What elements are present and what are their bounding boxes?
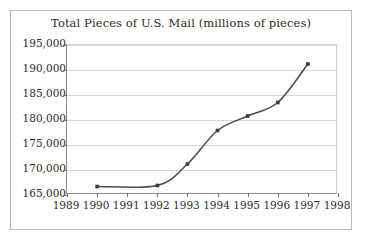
data-point-marker <box>276 101 280 105</box>
y-axis-tick-label: 190,000 <box>6 62 66 74</box>
data-point-marker <box>216 129 220 133</box>
x-axis-tick-mark <box>338 193 339 197</box>
series-line-mail-volume <box>97 64 308 187</box>
y-axis-tick-label: 170,000 <box>6 162 66 174</box>
y-axis-tick-label: 195,000 <box>6 37 66 49</box>
data-point-marker <box>246 114 250 118</box>
y-axis-tick-label: 175,000 <box>6 137 66 149</box>
plot-wrapper: 165,000170,000175,000180,000185,000190,0… <box>0 0 368 241</box>
data-point-marker <box>306 62 310 66</box>
data-series-mail-volume <box>67 45 338 195</box>
x-axis-tick-label: 1998 <box>317 199 357 211</box>
y-axis-tick-label: 185,000 <box>6 87 66 99</box>
chart-screenshot: Total Pieces of U.S. Mail (millions of p… <box>0 0 368 241</box>
y-axis-tick-label: 165,000 <box>6 187 66 199</box>
y-axis-tick-label: 180,000 <box>6 112 66 124</box>
data-point-marker <box>156 184 160 188</box>
data-point-marker <box>186 162 190 166</box>
series-markers <box>95 62 309 188</box>
plot-area <box>66 44 337 194</box>
data-point-marker <box>95 185 99 189</box>
